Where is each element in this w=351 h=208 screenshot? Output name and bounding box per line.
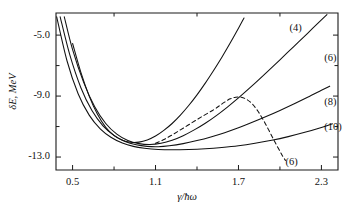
curve-label-8: (8) [324,96,337,108]
curve-8 [60,17,330,147]
energy-surface-plot: (4)(6)(8)(10)(6) 0.51.11.72.3 -5.0-9.0-1… [0,0,351,208]
x-tick-label: 2.3 [315,176,328,187]
data-curves [57,15,333,161]
x-axis-tick-labels: 0.51.11.72.3 [66,176,328,187]
y-tick-label: -5.0 [33,29,50,40]
y-tick-label: -9.0 [33,89,50,100]
curve-label-4: (4) [290,22,303,34]
curve-label-6-dashed: (6) [285,156,298,168]
x-axis-minor-ticks [114,13,280,170]
plot-frame [56,13,338,170]
x-tick-label: 0.5 [66,176,79,187]
curve-4 [73,18,244,142]
x-tick-label: 1.1 [149,176,162,187]
x-axis-title: γ/ħω [177,191,197,202]
y-tick-label: -13.0 [28,150,50,161]
y-axis-minor-ticks [56,66,338,127]
y-axis-tick-labels: -5.0-9.0-13.0 [28,29,50,162]
x-tick-label: 1.7 [232,176,245,187]
y-axis-major-ticks [56,35,338,157]
y-axis-title: δE, MeV [7,72,18,110]
figure-container: (4)(6)(8)(10)(6) 0.51.11.72.3 -5.0-9.0-1… [0,0,351,208]
curve-6-dashed [156,97,286,160]
curve-label-6: (6) [324,52,337,64]
curve-label-10: (10) [324,121,342,133]
